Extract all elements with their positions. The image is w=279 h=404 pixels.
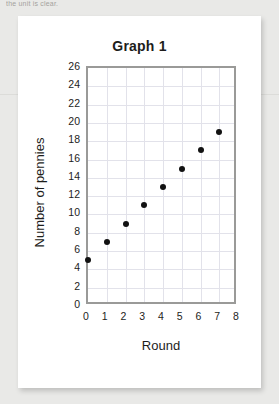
x-axis-tick-labels: 012345678 xyxy=(86,310,236,324)
x-tick-label: 7 xyxy=(209,310,225,322)
y-tick-label: 26 xyxy=(58,60,80,72)
data-point xyxy=(104,239,110,245)
x-tick-label: 4 xyxy=(153,310,169,322)
gridline-vertical xyxy=(107,68,108,302)
data-point xyxy=(198,147,204,153)
data-point xyxy=(160,184,166,190)
x-tick-label: 6 xyxy=(191,310,207,322)
x-tick-label: 1 xyxy=(97,310,113,322)
page-cutoff-text: the unit is clear. xyxy=(6,0,146,9)
x-axis-label: Round xyxy=(86,338,236,353)
y-tick-label: 24 xyxy=(58,78,80,90)
plot-area xyxy=(86,66,236,304)
x-tick-label: 0 xyxy=(78,310,94,322)
gridline-horizontal xyxy=(88,86,234,87)
y-tick-label: 16 xyxy=(58,152,80,164)
chart-title: Graph 1 xyxy=(18,38,261,54)
y-tick-label: 20 xyxy=(58,115,80,127)
y-tick-label: 12 xyxy=(58,188,80,200)
gridline-horizontal xyxy=(88,269,234,270)
gridline-horizontal xyxy=(88,251,234,252)
gridline-vertical xyxy=(144,68,145,302)
y-tick-label: 2 xyxy=(58,280,80,292)
y-tick-label: 8 xyxy=(58,225,80,237)
gridline-horizontal xyxy=(88,141,234,142)
x-tick-label: 8 xyxy=(228,310,244,322)
gridline-horizontal xyxy=(88,288,234,289)
y-tick-label: 10 xyxy=(58,206,80,218)
gridline-horizontal xyxy=(88,105,234,106)
y-tick-label: 18 xyxy=(58,133,80,145)
y-axis-label: Number of pennies xyxy=(32,113,47,273)
figure-card: Graph 1 02468101214161820222426 01234567… xyxy=(18,16,261,388)
y-tick-label: 22 xyxy=(58,97,80,109)
gridline-vertical xyxy=(126,68,127,302)
gridline-vertical xyxy=(182,68,183,302)
y-tick-label: 14 xyxy=(58,170,80,182)
gridline-horizontal xyxy=(88,214,234,215)
gridline-horizontal xyxy=(88,196,234,197)
x-tick-label: 5 xyxy=(172,310,188,322)
x-tick-label: 3 xyxy=(134,310,150,322)
x-tick-label: 2 xyxy=(116,310,132,322)
gridline-vertical xyxy=(201,68,202,302)
gridline-horizontal xyxy=(88,233,234,234)
gridline-horizontal xyxy=(88,123,234,124)
gridline-horizontal xyxy=(88,160,234,161)
y-tick-label: 6 xyxy=(58,243,80,255)
gridline-vertical xyxy=(219,68,220,302)
gridline-horizontal xyxy=(88,178,234,179)
data-point xyxy=(123,221,129,227)
y-tick-label: 0 xyxy=(58,298,80,310)
y-tick-label: 4 xyxy=(58,261,80,273)
data-point xyxy=(179,166,185,172)
y-axis-tick-labels: 02468101214161820222426 xyxy=(54,66,80,304)
